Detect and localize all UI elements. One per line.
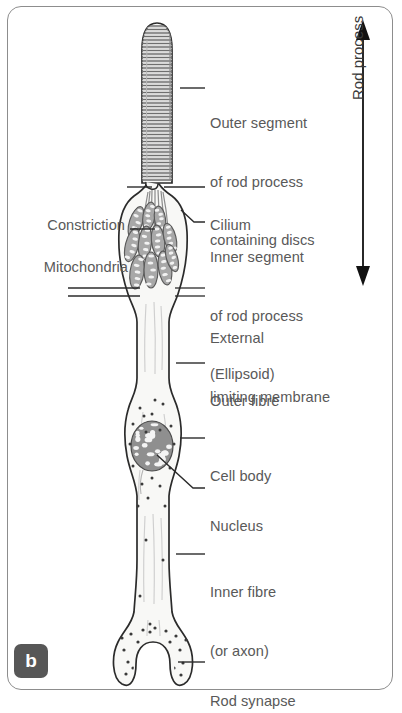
granule-dot	[137, 505, 140, 508]
chromatin-speck	[154, 462, 162, 466]
synapse-granule	[178, 648, 181, 651]
granule-dot	[162, 559, 165, 562]
granule-dot	[147, 497, 150, 500]
synapse-granule	[168, 640, 171, 643]
label-nucleus-line1: Nucleus	[210, 517, 263, 537]
granule-dot	[170, 425, 173, 428]
synapse-granule	[179, 673, 182, 676]
granule-dot	[164, 505, 167, 508]
panel-label-badge: b	[14, 644, 48, 678]
chromatin-speck	[133, 446, 139, 450]
synapse-granule	[148, 630, 151, 633]
label-outer-fibre-line1: Outer fibre	[210, 392, 280, 412]
chromatin-speck	[135, 431, 139, 435]
outer-segment-discs	[139, 26, 175, 180]
synapse-granule	[126, 660, 129, 663]
synapse-granule	[120, 636, 123, 639]
synapse-granule	[129, 632, 132, 635]
granule-dot	[162, 403, 165, 406]
label-rod-synapse: Rod synapse	[210, 653, 296, 713]
label-inner-fibre-line1: Inner fibre	[210, 583, 276, 603]
chromatin-speck	[150, 430, 155, 435]
synapse-granule	[136, 640, 139, 643]
synapse-granule	[141, 628, 144, 631]
chromatin-speck	[145, 461, 150, 465]
chromatin-speck	[142, 443, 148, 448]
granule-dot	[139, 595, 142, 598]
chromatin-speck	[147, 452, 155, 456]
granule-dot	[154, 399, 157, 402]
granule-dot	[159, 429, 162, 432]
granule-dot	[139, 407, 142, 410]
chromatin-speck	[151, 423, 159, 426]
synapse-granule	[124, 672, 127, 675]
granule-dot	[145, 431, 148, 434]
label-inner-segment-line1: Inner segment	[210, 248, 304, 268]
synapse-granule	[184, 638, 187, 641]
synapse-granule	[174, 634, 177, 637]
granule-dot	[159, 485, 162, 488]
chromatin-speck	[139, 427, 143, 430]
granule-dot	[141, 483, 144, 486]
chromatin-speck	[135, 437, 140, 442]
mitochondrion-crista	[148, 276, 154, 279]
granule-dot	[129, 443, 132, 446]
granule-dot	[149, 623, 152, 626]
chromatin-speck	[166, 444, 172, 449]
synapse-granule	[164, 629, 167, 632]
granule-dot	[143, 415, 146, 418]
granule-dot	[132, 423, 135, 426]
label-rod-synapse-line1: Rod synapse	[210, 692, 296, 712]
synapse-granule	[122, 648, 125, 651]
granule-dot	[173, 443, 176, 446]
chromatin-speck	[145, 438, 153, 443]
label-elm-line1: External	[210, 329, 330, 349]
chromatin-speck	[155, 449, 160, 453]
mitochondrion-crista	[150, 269, 156, 272]
label-outer-segment-line1: Outer segment	[210, 114, 315, 134]
outer-segment-shading	[147, 40, 148, 178]
granule-dot	[132, 465, 135, 468]
granule-dot	[151, 413, 154, 416]
label-rod-process: Rod process	[349, 0, 366, 100]
mitochondrion-crista	[148, 255, 154, 258]
mitochondrion-crista	[147, 262, 153, 265]
synapse-granule	[153, 626, 156, 629]
label-mitochondria: Mitochondria	[0, 219, 128, 317]
chromatin-speck	[161, 450, 169, 455]
granule-dot	[151, 477, 154, 480]
chromatin-speck	[135, 452, 139, 456]
mitochondrion	[144, 252, 158, 288]
label-mitochondria-line1: Mitochondria	[0, 258, 128, 278]
granule-dot	[145, 539, 148, 542]
mitochondrion-crista	[146, 283, 152, 286]
